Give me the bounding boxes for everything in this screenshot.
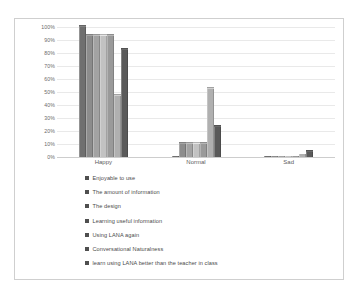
- bar-top-cap: [100, 34, 107, 36]
- legend-item-label: Using LANA again: [93, 232, 140, 238]
- bar-top-cap: [79, 25, 86, 27]
- bar-top-cap: [114, 94, 121, 96]
- plot-area: 100%90%80%70%60%50%40%30%20%10%0% HappyN…: [15, 19, 343, 167]
- bar-groups: [57, 27, 335, 157]
- bar: [214, 127, 221, 157]
- y-axis-tick-label: 40%: [44, 102, 55, 108]
- legend-swatch-icon: [85, 204, 89, 208]
- y-axis-tick-label: 30%: [44, 115, 55, 121]
- bar: [299, 154, 306, 157]
- y-axis-tick-label: 60%: [44, 76, 55, 82]
- bar-top-cap: [179, 142, 186, 144]
- legend-item[interactable]: Learning useful information: [85, 214, 337, 228]
- bar: [278, 156, 285, 157]
- bar-top-cap: [207, 87, 214, 89]
- bar-top-cap: [93, 34, 100, 36]
- x-axis-tick-label: Sad: [242, 159, 335, 165]
- bar: [200, 144, 207, 157]
- bar: [100, 36, 107, 157]
- bar-group: [242, 27, 335, 157]
- bar-group: [150, 27, 243, 157]
- bar: [114, 96, 121, 157]
- x-axis-tick-label: Happy: [57, 159, 150, 165]
- gridline: [57, 157, 335, 158]
- legend-item[interactable]: The amount of information: [85, 185, 337, 199]
- legend-swatch-icon: [85, 219, 89, 223]
- chart-legend: Enjoyable to useThe amount of informatio…: [85, 171, 337, 270]
- y-axis-tick-label: 0%: [47, 154, 55, 160]
- bar-top-cap: [107, 34, 114, 36]
- y-axis-tick-label: 80%: [44, 50, 55, 56]
- bar-top-cap: [200, 142, 207, 144]
- y-axis-tick-label: 90%: [44, 37, 55, 43]
- legend-item-label: Learning useful information: [93, 218, 163, 224]
- bar: [79, 27, 86, 157]
- y-axis-tick-label: 50%: [44, 89, 55, 95]
- bar: [93, 36, 100, 157]
- bar-top-cap: [186, 142, 193, 144]
- y-axis-tick-label: 100%: [41, 24, 55, 30]
- legend-swatch-icon: [85, 261, 89, 265]
- bar: [193, 144, 200, 157]
- bar: [107, 36, 114, 157]
- bar-top-cap: [193, 142, 200, 144]
- y-axis-tick-label: 20%: [44, 128, 55, 134]
- bar: [121, 50, 128, 157]
- y-axis-tick-labels: 100%90%80%70%60%50%40%30%20%10%0%: [19, 27, 55, 157]
- legend-swatch-icon: [85, 176, 89, 180]
- y-axis-tick-label: 70%: [44, 63, 55, 69]
- legend-item[interactable]: The design: [85, 199, 337, 213]
- bar-top-cap: [86, 34, 93, 36]
- legend-item-label: learn using LANA better than the teacher…: [93, 260, 218, 266]
- legend-swatch-icon: [85, 190, 89, 194]
- bar: [179, 144, 186, 157]
- y-axis-tick-label: 10%: [44, 141, 55, 147]
- chart-frame: 100%90%80%70%60%50%40%30%20%10%0% HappyN…: [14, 18, 344, 280]
- bar: [264, 156, 271, 157]
- bar: [306, 152, 313, 157]
- legend-swatch-icon: [85, 233, 89, 237]
- legend-item-label: The design: [93, 203, 121, 209]
- x-axis-tick-label: Normal: [150, 159, 243, 165]
- bar: [285, 156, 292, 157]
- bar: [186, 144, 193, 157]
- bar: [86, 36, 93, 157]
- bar: [292, 156, 299, 157]
- legend-swatch-icon: [85, 247, 89, 251]
- bar-top-cap: [121, 48, 128, 50]
- legend-item[interactable]: Conversational Naturalness: [85, 242, 337, 256]
- legend-item[interactable]: Using LANA again: [85, 228, 337, 242]
- legend-item[interactable]: learn using LANA better than the teacher…: [85, 256, 337, 270]
- legend-item-label: The amount of information: [93, 189, 160, 195]
- legend-item[interactable]: Enjoyable to use: [85, 171, 337, 185]
- legend-item-label: Conversational Naturalness: [93, 246, 164, 252]
- bar-group: [57, 27, 150, 157]
- bar: [207, 89, 214, 157]
- bar-top-cap: [214, 125, 221, 127]
- bar: [271, 156, 278, 157]
- bar: [172, 156, 179, 157]
- bar-top-cap: [306, 150, 313, 152]
- x-axis-tick-labels: HappyNormalSad: [57, 159, 335, 165]
- legend-item-label: Enjoyable to use: [93, 175, 136, 181]
